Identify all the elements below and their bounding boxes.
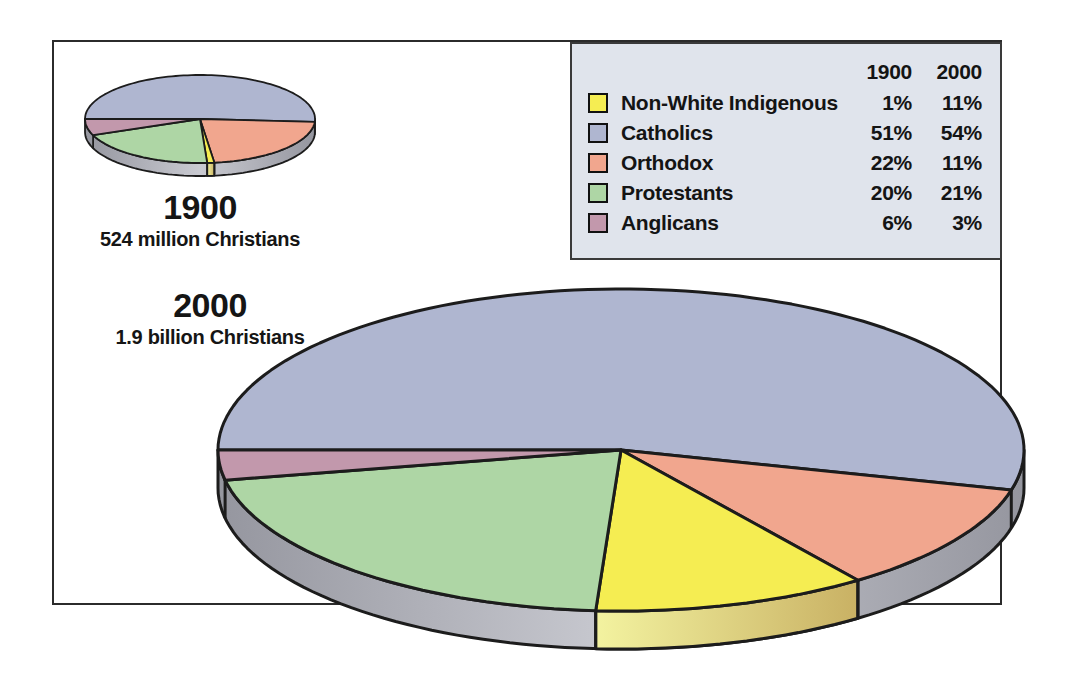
legend-label: Protestants <box>621 181 850 205</box>
pie-1900 <box>85 75 315 176</box>
pie-1900-year-label: 1900 <box>75 190 325 224</box>
legend-label: Catholics <box>621 121 850 145</box>
legend-label: Anglicans <box>621 211 850 235</box>
legend-value-1900: 1% <box>850 91 912 115</box>
legend-swatch-icon <box>588 153 608 173</box>
pie-2000-total-label: 1.9 billion Christians <box>80 326 340 349</box>
legend-swatch-icon <box>588 213 608 233</box>
slice-catholics <box>85 75 315 122</box>
pie-2000-year-label: 2000 <box>80 288 340 322</box>
legend-swatch-icon <box>588 93 608 113</box>
legend-header-row: 1900 2000 <box>588 56 982 88</box>
legend-value-2000: 11% <box>912 91 982 115</box>
legend-row: Anglicans6%3% <box>588 208 982 238</box>
legend-value-1900: 6% <box>850 211 912 235</box>
legend-value-2000: 3% <box>912 211 982 235</box>
legend-value-2000: 11% <box>912 151 982 175</box>
pie-1900-caption-block: 1900 524 million Christians <box>75 190 325 251</box>
legend-row: Protestants20%21% <box>588 178 982 208</box>
legend-col-header-1900: 1900 <box>850 60 912 84</box>
legend-row: Orthodox22%11% <box>588 148 982 178</box>
legend-swatch-icon <box>588 183 608 203</box>
legend-label: Orthodox <box>621 151 850 175</box>
figure: 1900 524 million Christians 2000 1.9 bil… <box>0 0 1074 676</box>
pie-1900-total-label: 524 million Christians <box>75 228 325 251</box>
legend-value-1900: 20% <box>850 181 912 205</box>
legend-rows: Non-White Indigenous1%11%Catholics51%54%… <box>588 88 982 238</box>
legend-label: Non-White Indigenous <box>621 91 850 115</box>
legend: 1900 2000 Non-White Indigenous1%11%Catho… <box>570 42 1002 260</box>
legend-swatch-icon <box>588 123 608 143</box>
legend-value-1900: 51% <box>850 121 912 145</box>
pie-side-non-white-indigenous <box>207 163 214 176</box>
legend-value-2000: 54% <box>912 121 982 145</box>
pie-2000-caption-block: 2000 1.9 billion Christians <box>80 288 340 349</box>
legend-row: Catholics51%54% <box>588 118 982 148</box>
legend-value-1900: 22% <box>850 151 912 175</box>
legend-col-header-2000: 2000 <box>912 60 982 84</box>
legend-row: Non-White Indigenous1%11% <box>588 88 982 118</box>
legend-value-2000: 21% <box>912 181 982 205</box>
